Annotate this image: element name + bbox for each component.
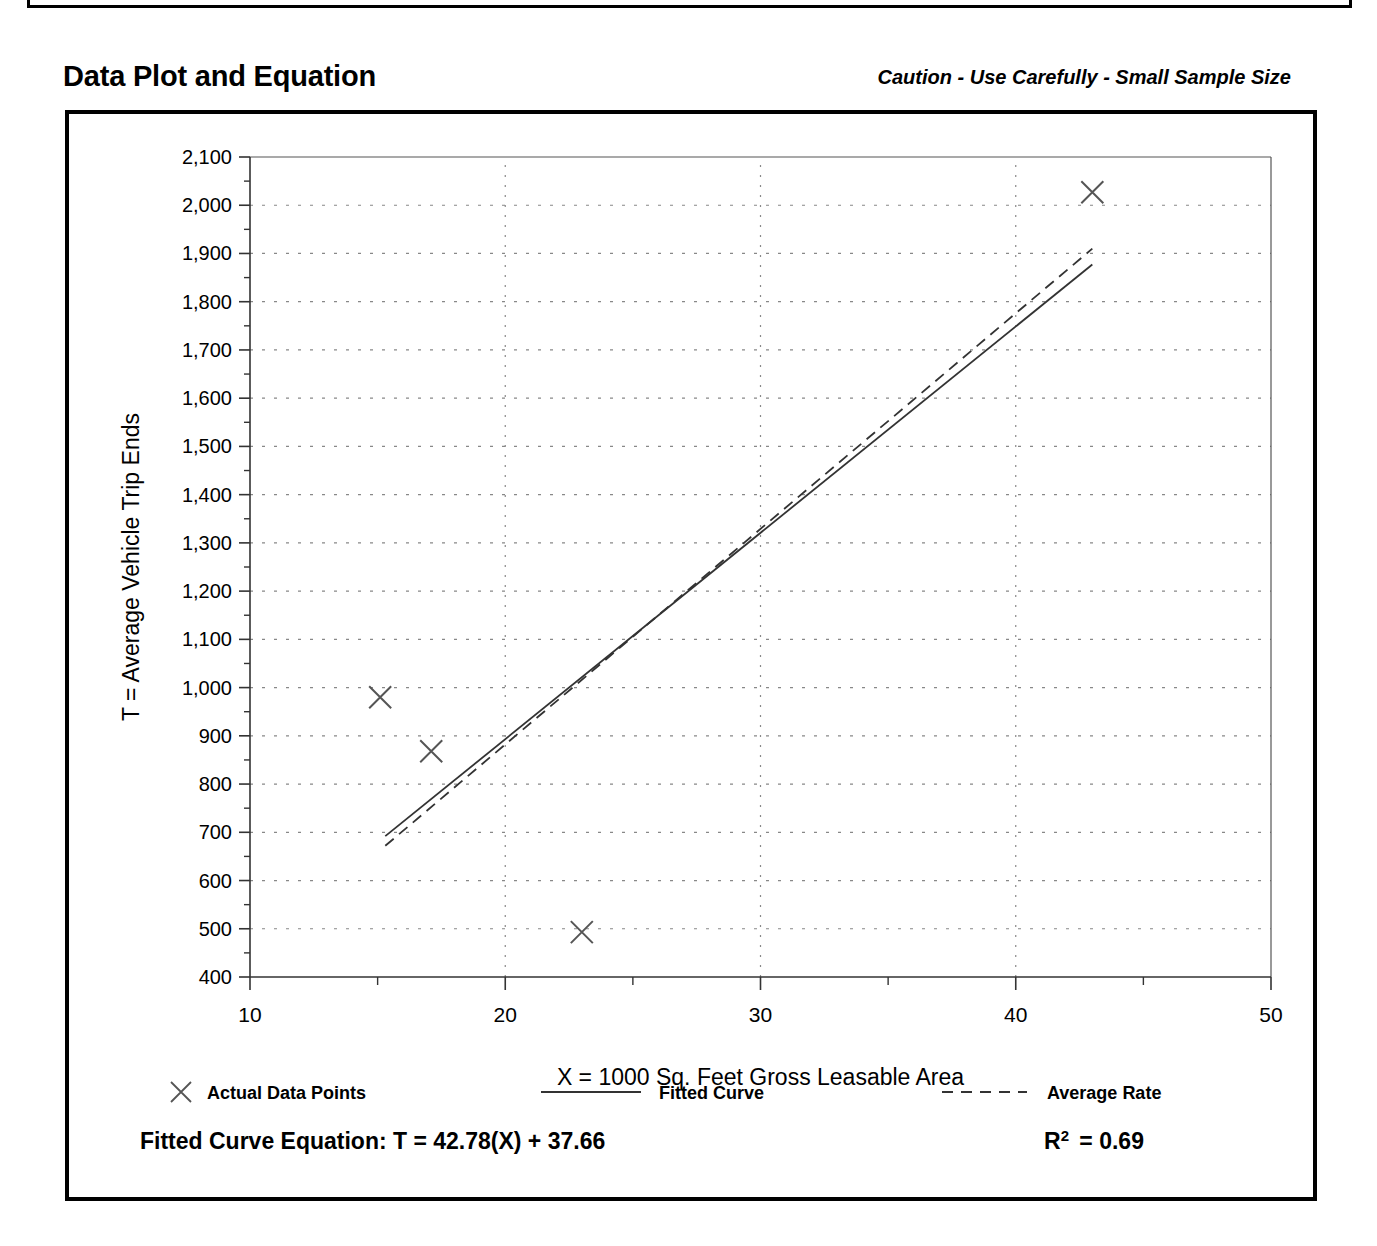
figure-header: Data Plot and Equation Caution - Use Car… (0, 60, 1377, 102)
legend-label-average-rate: Average Rate (1047, 1083, 1161, 1103)
figure-frame: 4005006007008009001,0001,1001,2001,3001,… (65, 110, 1317, 1201)
legend-label-actual-data-points: Actual Data Points (207, 1083, 366, 1103)
y-tick-label: 1,600 (182, 387, 232, 409)
r-squared-value: R2 = 0.69 (1044, 1127, 1144, 1155)
y-tick-label: 1,100 (182, 628, 232, 650)
y-tick-label: 900 (199, 725, 232, 747)
x-tick-label: 30 (749, 1003, 772, 1026)
y-tick-label: 1,800 (182, 291, 232, 313)
y-tick-label: 2,100 (182, 146, 232, 168)
y-tick-label: 1,200 (182, 580, 232, 602)
y-tick-label: 700 (199, 821, 232, 843)
y-tick-label: 400 (199, 966, 232, 988)
page-title: Data Plot and Equation (63, 60, 376, 93)
x-tick-label: 20 (494, 1003, 517, 1026)
x-tick-label: 10 (238, 1003, 261, 1026)
data-point-marker (571, 921, 593, 943)
caution-note: Caution - Use Carefully - Small Sample S… (878, 66, 1291, 89)
data-point-marker (1081, 181, 1103, 203)
y-tick-label: 800 (199, 773, 232, 795)
y-tick-label: 600 (199, 870, 232, 892)
y-axis-title: T = Average Vehicle Trip Ends (118, 413, 144, 721)
legend-x-marker-icon (171, 1082, 191, 1102)
y-tick-label: 500 (199, 918, 232, 940)
y-tick-label: 1,900 (182, 242, 232, 264)
scatter-plot: 4005006007008009001,0001,1001,2001,3001,… (69, 114, 1313, 1197)
average-rate-line (385, 249, 1092, 846)
x-tick-label: 40 (1004, 1003, 1027, 1026)
y-tick-label: 1,500 (182, 435, 232, 457)
data-point-marker (369, 686, 391, 708)
y-tick-label: 1,700 (182, 339, 232, 361)
legend-label-fitted-curve: Fitted Curve (659, 1083, 764, 1103)
y-tick-label: 1,300 (182, 532, 232, 554)
fitted-curve-equation: Fitted Curve Equation: T = 42.78(X) + 37… (140, 1128, 605, 1154)
y-tick-label: 1,000 (182, 677, 232, 699)
x-tick-label: 50 (1259, 1003, 1282, 1026)
data-point-marker (420, 740, 442, 762)
y-tick-label: 1,400 (182, 484, 232, 506)
cut-off-box-above (27, 0, 1352, 8)
y-tick-label: 2,000 (182, 194, 232, 216)
